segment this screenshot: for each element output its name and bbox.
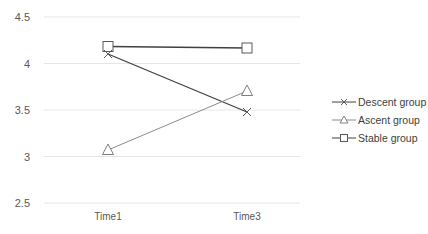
y-axis-labels: 4.5 4 3.5 3 2.5: [15, 11, 30, 209]
x-axis-labels: Time1 Time3: [94, 211, 261, 222]
legend-label: Stable group: [358, 132, 418, 144]
y-tick-label: 4.5: [15, 11, 30, 23]
y-tick-label: 4: [24, 58, 30, 70]
line-chart: 4.5 4 3.5 3 2.5 Time1 Time3: [0, 0, 428, 234]
y-tick-label: 3.5: [15, 104, 30, 116]
x-tick-label: Time1: [94, 211, 122, 222]
square-marker: [242, 43, 252, 53]
legend-item-descent: Descent group: [332, 96, 426, 108]
triangle-marker: [242, 85, 253, 96]
x-tick-label: Time3: [233, 211, 261, 222]
y-tick-label: 3: [24, 151, 30, 163]
legend-label: Ascent group: [358, 114, 420, 126]
series-ascent-group: [103, 85, 253, 155]
square-marker-icon: [341, 135, 348, 142]
legend-label: Descent group: [358, 96, 426, 108]
x-marker: [243, 108, 251, 116]
gridlines: [44, 17, 300, 203]
legend-item-stable: Stable group: [332, 132, 418, 144]
triangle-marker: [103, 144, 114, 155]
legend: Descent group Ascent group Stable group: [332, 96, 426, 144]
series-stable-group: [103, 42, 252, 54]
series-descent-group: [104, 50, 251, 116]
y-tick-label: 2.5: [15, 197, 30, 209]
legend-item-ascent: Ascent group: [332, 114, 420, 126]
